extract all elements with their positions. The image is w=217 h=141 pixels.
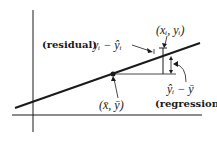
- mean-pointer: [114, 79, 118, 98]
- residual-pointer: [132, 45, 150, 51]
- arrowhead-up: [169, 56, 173, 60]
- mean-pointer-head: [111, 76, 116, 81]
- data-point-label: (xᵢ, yᵢ): [156, 24, 184, 36]
- point-pointer-head: [162, 43, 167, 48]
- regression-pointer: [175, 64, 186, 82]
- residual-pointer-head: [147, 48, 153, 53]
- regression-diagram: [0, 0, 217, 141]
- residual-label: (residual): [42, 40, 97, 50]
- point-pointer: [165, 36, 167, 45]
- residual-expression: yᵢ − ŷᵢ: [93, 39, 122, 51]
- regression-label: (regression): [155, 99, 217, 109]
- regression-pointer-head: [173, 61, 178, 67]
- mean-point-label: (x̄, ȳ): [99, 99, 124, 111]
- arrowhead-down: [169, 70, 173, 74]
- regression-expression: ŷᵢ − ȳ: [167, 83, 194, 95]
